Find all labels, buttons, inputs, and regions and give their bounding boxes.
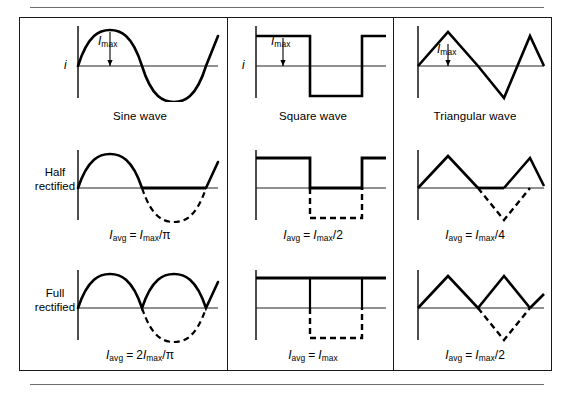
cell-square-unrectified: i Imax <box>238 22 388 102</box>
cell-triangular-unrectified: Imax <box>404 22 546 102</box>
amplitude-label-triangular: Imax <box>437 42 456 57</box>
formula-triangular-full: Iavg=Imax/2 <box>404 348 546 363</box>
formula-triangular-half: Iavg=Imax/4 <box>404 228 546 243</box>
waveform-square-full-rectified <box>238 268 388 344</box>
cell-sine-unrectified: i Imax <box>60 22 220 102</box>
figure-page: i Imax Sine wave i Imax Square wave Imax… <box>0 0 570 393</box>
waveform-square-unrectified <box>238 22 388 102</box>
waveform-sine-full-rectified <box>60 268 220 344</box>
caption-triangular-wave: Triangular wave <box>404 110 546 122</box>
formula-square-full: Iavg=Imax <box>238 348 388 363</box>
cell-square-half <box>238 148 388 224</box>
cell-triangular-half <box>404 148 546 224</box>
formula-sine-half: Iavg=Imax/π <box>60 228 220 243</box>
amplitude-label-square: Imax <box>271 34 290 49</box>
cell-square-full <box>238 268 388 344</box>
axis-label-i: i <box>64 58 67 72</box>
caption-sine-wave: Sine wave <box>60 110 220 122</box>
formula-sine-full: Iavg=2Imax/π <box>60 348 220 363</box>
column-divider-2 <box>393 17 394 371</box>
top-rule <box>30 7 544 8</box>
waveform-triangular-unrectified <box>404 22 546 102</box>
cell-sine-full <box>60 268 220 344</box>
cell-triangular-full <box>404 268 546 344</box>
amplitude-label-sine: Imax <box>98 34 117 49</box>
waveform-triangular-full-rectified <box>404 268 546 344</box>
waveform-square-half-rectified <box>238 148 388 224</box>
waveform-sine-unrectified <box>60 22 220 102</box>
formula-square-half: Iavg=Imax/2 <box>238 228 388 243</box>
column-divider-1 <box>227 17 228 371</box>
waveform-sine-half-rectified <box>60 148 220 224</box>
axis-label-i: i <box>242 58 245 72</box>
caption-square-wave: Square wave <box>238 110 388 122</box>
cell-sine-half <box>60 148 220 224</box>
bottom-rule <box>30 384 544 385</box>
waveform-triangular-half-rectified <box>404 148 546 224</box>
